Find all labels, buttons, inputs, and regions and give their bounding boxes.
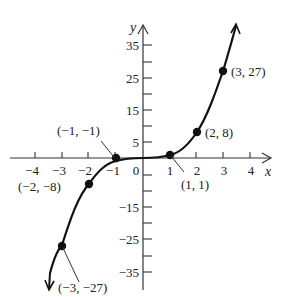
y-tick-label: 15 [126, 103, 139, 118]
y-tick-label: 25 [126, 71, 139, 86]
point-label: (1, 1) [181, 177, 209, 192]
x-axis-label: x [264, 164, 272, 179]
x-tick-label: 0 [133, 163, 140, 178]
y-tick-label: −35 [119, 265, 139, 280]
y-tick-label: −15 [119, 200, 139, 215]
point-neg3 [58, 242, 66, 250]
point-2 [193, 128, 201, 136]
y-tick-label: −25 [119, 232, 139, 247]
y-axis-label: y [128, 20, 137, 35]
x-axis: −4 −3 −2 −1 0 1 2 3 4 x [10, 152, 272, 179]
x-tick-label: 3 [221, 163, 228, 178]
y-tick-label: 5 [133, 135, 140, 150]
point-label: (3, 27) [231, 64, 266, 79]
point-label: (2, 8) [205, 125, 233, 140]
point-neg2 [85, 180, 93, 188]
cubic-function-graph: −4 −3 −2 −1 0 1 2 3 4 x y 35 [0, 0, 281, 297]
y-axis: y 35 25 15 5 −15 −25 −35 [119, 20, 152, 290]
x-tick-label: −4 [25, 163, 39, 178]
y-tick-label: 35 [126, 38, 139, 53]
x-tick-label: 1 [167, 163, 174, 178]
point-3 [219, 67, 227, 75]
x-tick-label: −3 [52, 163, 66, 178]
point-label: (−2, −8) [18, 179, 61, 194]
x-tick-label: 2 [194, 163, 201, 178]
x-tick-label: 4 [248, 163, 255, 178]
point-label: (−3, −27) [58, 280, 107, 295]
x-tick-label: −2 [78, 163, 92, 178]
point-label: (−1, −1) [57, 123, 100, 138]
